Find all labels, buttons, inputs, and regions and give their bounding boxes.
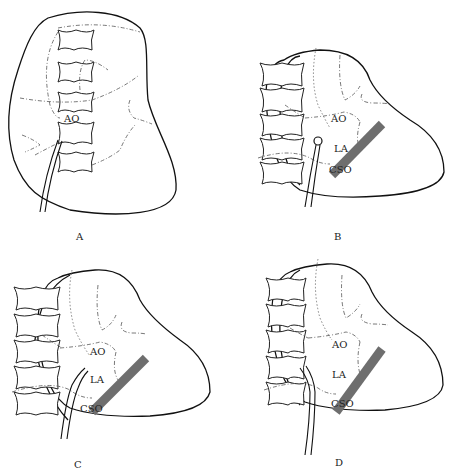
- vertebra-c3: [14, 340, 60, 363]
- panel-a: AO A: [9, 12, 176, 242]
- catheter-tip-ring-b: [314, 137, 322, 145]
- vertebra-d1: [266, 278, 306, 301]
- panel-label-c: C: [74, 459, 82, 470]
- catheter-b-1: [305, 145, 316, 207]
- vertebra-b3: [260, 114, 304, 136]
- label-cso-c: CSO: [80, 403, 103, 414]
- label-ao-c: AO: [89, 346, 105, 357]
- chamber-line-c2: [97, 285, 116, 330]
- panel-d: AO LA CSO D: [264, 259, 443, 468]
- chamber-line-a1: [58, 25, 140, 32]
- label-la-c: LA: [90, 374, 105, 385]
- chamber-line-d5: [361, 314, 388, 325]
- chamber-line-c1: [70, 270, 90, 356]
- catheter-d-2: [306, 366, 315, 455]
- vertebra-c1: [14, 287, 60, 310]
- figure-canvas: AO A AO LA CSO B: [0, 0, 451, 472]
- panel-b: AO LA CSO B: [258, 48, 444, 242]
- chamber-line-c4: [114, 352, 118, 380]
- chamber-line-a2: [46, 32, 60, 118]
- vertebra-a5: [58, 152, 94, 172]
- vertebra-b5: [260, 162, 304, 184]
- panel-label-a: A: [75, 231, 84, 242]
- panel-label-b: B: [334, 231, 341, 242]
- chamber-line-b5: [361, 94, 390, 104]
- vertebra-c4: [14, 366, 60, 389]
- vertebra-d2: [266, 304, 306, 327]
- label-la-b: LA: [334, 143, 349, 154]
- label-ao-a: AO: [63, 113, 79, 124]
- label-cso-b: CSO: [329, 164, 352, 175]
- chamber-line-d1: [315, 259, 332, 340]
- chamber-line-c5: [121, 322, 146, 334]
- chamber-line-b2: [340, 55, 360, 100]
- chamber-line-c3: [60, 342, 116, 352]
- vertebra-c2: [14, 314, 60, 337]
- catheter-d-1: [300, 368, 310, 455]
- panel-c: AO LA CSO C: [12, 270, 210, 470]
- chamber-line-d4: [358, 342, 360, 374]
- vertebra-d5: [266, 382, 306, 405]
- vertebra-c5: [14, 392, 60, 415]
- chamber-line-b1: [313, 48, 330, 128]
- heart-outline-c: [38, 270, 210, 416]
- catheter-b-2: [311, 145, 320, 207]
- chamber-line-a7: [22, 135, 40, 152]
- label-ao-d: AO: [331, 339, 347, 350]
- vertebra-b1: [260, 63, 304, 86]
- vertebra-d4: [266, 356, 306, 379]
- chamber-line-a6: [92, 125, 135, 165]
- vertebra-b4: [260, 138, 304, 160]
- chamber-line-d2: [342, 275, 361, 318]
- vertebra-a2: [58, 62, 94, 82]
- label-la-d: LA: [332, 369, 347, 380]
- heart-outline-a: [9, 12, 176, 214]
- panel-label-d: D: [335, 457, 343, 468]
- vertebra-b2: [260, 88, 304, 112]
- vertebra-a1: [58, 30, 94, 50]
- label-cso-d: CSO: [331, 398, 354, 409]
- label-ao-b: AO: [330, 113, 346, 124]
- vertebra-a4: [58, 122, 94, 144]
